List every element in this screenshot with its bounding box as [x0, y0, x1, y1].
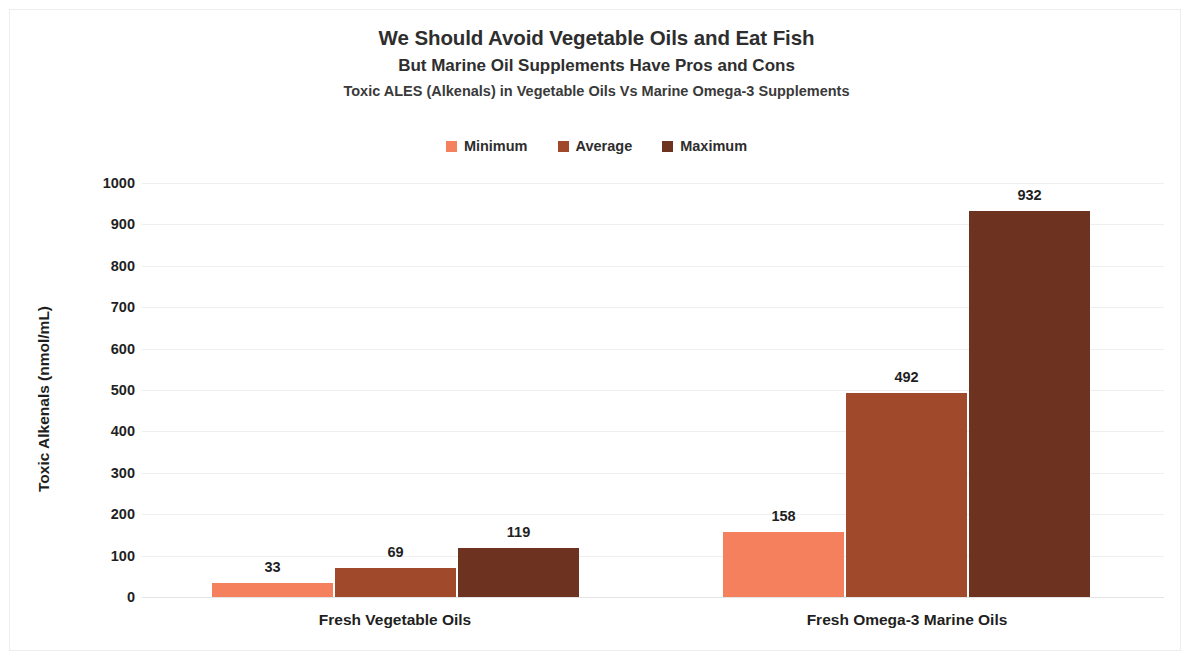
plot-area: 0100200300400500600700800900100033691191…	[142, 183, 1164, 597]
gridline	[142, 597, 1164, 598]
chart-page: We Should Avoid Vegetable Oils and Eat F…	[0, 0, 1193, 663]
gridline	[142, 183, 1164, 184]
y-axis-tick-label: 100	[55, 548, 135, 564]
bar-value-label: 158	[771, 508, 795, 524]
y-axis-tick-label: 600	[55, 341, 135, 357]
y-axis-tick-label: 400	[55, 423, 135, 439]
y-axis-tick-label: 900	[55, 216, 135, 232]
bar-value-label: 33	[264, 559, 280, 575]
x-axis-category-label: Fresh Omega-3 Marine Oils	[807, 611, 1008, 629]
plot-wrapper: Toxic Alkenals (nmol/mL) 010020030040050…	[0, 0, 1193, 663]
bar-minimum-0[interactable]	[212, 583, 333, 597]
y-axis-tick-label: 700	[55, 299, 135, 315]
bar-value-label: 69	[387, 544, 403, 560]
bar-maximum-0[interactable]	[458, 548, 579, 597]
y-axis-tick-label: 200	[55, 506, 135, 522]
y-axis-tick-label: 1000	[55, 175, 135, 191]
bar-value-label: 119	[507, 524, 530, 540]
bar-minimum-1[interactable]	[723, 532, 844, 597]
bar-average-0[interactable]	[335, 568, 456, 597]
y-axis-tick-label: 800	[55, 258, 135, 274]
y-axis-title: Toxic Alkenals (nmol/mL)	[35, 269, 53, 529]
y-axis-tick-label: 300	[55, 465, 135, 481]
bar-average-1[interactable]	[846, 393, 967, 597]
bar-value-label: 932	[1017, 187, 1041, 203]
y-axis-tick-label: 500	[55, 382, 135, 398]
bar-maximum-1[interactable]	[969, 211, 1090, 597]
x-axis-category-label: Fresh Vegetable Oils	[319, 611, 471, 629]
y-axis-tick-label: 0	[55, 589, 135, 605]
bar-value-label: 492	[894, 369, 918, 385]
